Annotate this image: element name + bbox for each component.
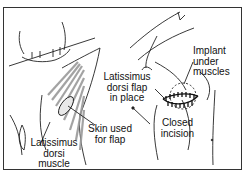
label-skin-used-for-flap: Skin used for flap [80,124,140,145]
label-closed-incision: Closed incision [150,118,205,139]
closed-incision-stitches [163,92,198,108]
label-latissimus-dorsi-muscle: Latissimus dorsi muscle [24,138,84,170]
label-latissimus-flap-in-place: Latissimus dorsi flap in place [96,72,158,104]
label-implant-under-muscles: Implant under muscles [193,46,241,78]
